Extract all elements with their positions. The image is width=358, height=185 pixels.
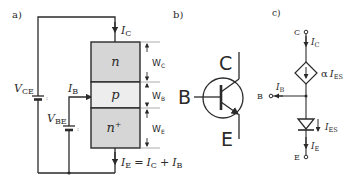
dependent-current-source-icon [295, 62, 317, 84]
vbe-label: VBE [47, 112, 67, 126]
we-label: WE [152, 124, 165, 135]
panel-a: a) : VCE : VBE IB n p n+ [12, 9, 182, 175]
panel-b-label: b) [173, 9, 183, 20]
panel-c: c) C IC αIES B IB IES IE E [257, 8, 343, 162]
source-label: αIES [321, 68, 343, 81]
ib-label: IB [67, 82, 78, 96]
vbe-battery-icon: : [63, 125, 79, 173]
wc-label: WC [152, 58, 165, 69]
ie-label-c: IE [310, 141, 320, 153]
ic-label: IC [120, 24, 131, 38]
terminal-e-label: E [221, 128, 233, 150]
vce-label: VCE [14, 82, 34, 96]
ies-label: IES [324, 122, 338, 134]
panel-a-label: a) [12, 9, 22, 20]
ic-label-c: IC [310, 37, 320, 49]
terminal-c-label: C [219, 52, 232, 74]
collector-region-label: n [111, 54, 119, 69]
b-terminal-label: B [257, 92, 263, 101]
panel-b: b) C B E [173, 9, 243, 150]
ib-label-c: IB [275, 82, 285, 94]
base-terminal [269, 94, 273, 98]
panel-c-label: c) [272, 8, 281, 18]
bjt-diagram: a) : VCE : VBE IB n p n+ [0, 0, 358, 185]
e-terminal-label: E [294, 153, 300, 162]
collector-terminal [304, 30, 308, 34]
diode-icon [298, 119, 314, 130]
base-wire [69, 97, 91, 126]
c-terminal-label: C [294, 28, 300, 37]
wb-label: WB [152, 91, 165, 102]
svg-text::: : [77, 125, 79, 132]
emitter-terminal [304, 155, 308, 159]
ie-equation: IE=IC+IB [120, 156, 182, 170]
vce-battery-icon: : [32, 86, 48, 106]
base-region-label: p [111, 87, 120, 102]
terminal-b-label: B [178, 86, 191, 108]
svg-text::: : [46, 94, 48, 101]
